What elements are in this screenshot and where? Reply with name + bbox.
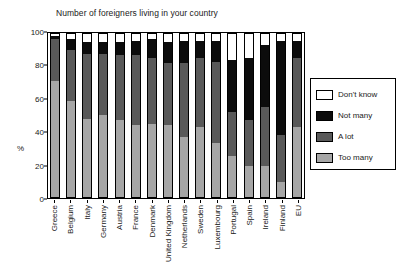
x-axis-tick-label: Finland [277, 205, 286, 231]
bar-segment-nm [164, 42, 172, 63]
bar-segment-nm [132, 41, 140, 56]
y-axis-tick-label: 20 [4, 161, 44, 170]
bar-segment-tm [116, 120, 124, 197]
bar-segment-tm [51, 81, 59, 197]
bar-column[interactable] [179, 33, 189, 198]
x-axis-tick-mark [135, 200, 136, 203]
bar-segment-nm [196, 41, 204, 59]
stacked-bar[interactable] [115, 33, 125, 198]
bar-column[interactable] [115, 33, 125, 198]
x-axis-tick-mark [152, 200, 153, 203]
bar-segment-al [83, 54, 91, 119]
x-axis-tick-mark [54, 200, 55, 203]
bar-segment-nm [293, 41, 301, 59]
x-axis-item: Sweden [195, 200, 205, 276]
bar-column[interactable] [227, 33, 237, 198]
bar-segment-tm [261, 166, 269, 197]
bar-segment-tm [212, 143, 220, 197]
legend-item[interactable]: Don't know [316, 84, 395, 105]
stacked-bar[interactable] [179, 33, 189, 198]
bar-segment-al [228, 112, 236, 156]
stacked-bar[interactable] [227, 33, 237, 198]
bar-segment-tm [293, 127, 301, 197]
bar-group [48, 33, 304, 198]
bar-column[interactable] [82, 33, 92, 198]
bar-segment-dk [99, 34, 107, 42]
bar-segment-dk [164, 34, 172, 42]
stacked-bar[interactable] [292, 33, 302, 198]
bar-segment-tm [83, 119, 91, 197]
y-axis-tick-label: 80 [4, 61, 44, 70]
x-axis-tick-label: Netherlands [180, 205, 189, 248]
bar-column[interactable] [276, 33, 286, 198]
y-axis-tick-label: 100 [4, 28, 44, 37]
stacked-bar[interactable] [147, 33, 157, 198]
bar-column[interactable] [98, 33, 108, 198]
bar-segment-tm [99, 115, 107, 197]
bar-segment-tm [277, 182, 285, 197]
y-axis-tick-label: 40 [4, 128, 44, 137]
x-axis-item: Italy [82, 200, 92, 276]
bar-segment-tm [196, 127, 204, 197]
bar-segment-al [164, 63, 172, 125]
bar-segment-tm [67, 101, 75, 197]
x-axis-item: United Kingdom [163, 200, 173, 276]
bar-column[interactable] [163, 33, 173, 198]
x-axis-item: Ireland [260, 200, 270, 276]
legend-item[interactable]: Too many [316, 147, 395, 168]
x-axis-item: Greece [49, 200, 59, 276]
bar-segment-al [261, 107, 269, 166]
bar-column[interactable] [147, 33, 157, 198]
x-axis-tick-mark [184, 200, 185, 203]
bar-segment-al [67, 50, 75, 101]
stacked-bar[interactable] [131, 33, 141, 198]
x-axis-tick-mark [103, 200, 104, 203]
y-axis-tick-label: 60 [4, 94, 44, 103]
bar-segment-dk [83, 34, 91, 42]
bar-column[interactable] [131, 33, 141, 198]
bar-column[interactable] [292, 33, 302, 198]
bar-segment-al [245, 120, 253, 166]
stacked-bar[interactable] [195, 33, 205, 198]
bar-column[interactable] [66, 33, 76, 198]
x-axis-tick-label: Sweden [196, 205, 205, 234]
bar-column[interactable] [244, 33, 254, 198]
y-axis: % 020406080100 [0, 32, 47, 199]
bar-segment-dk [116, 34, 124, 42]
x-axis-tick-label: United Kingdom [163, 205, 172, 262]
stacked-bar[interactable] [66, 33, 76, 198]
stacked-bar[interactable] [260, 33, 270, 198]
legend-item[interactable]: A lot [316, 126, 395, 147]
bar-segment-dk [261, 34, 269, 45]
stacked-bar[interactable] [276, 33, 286, 198]
x-axis-tick-mark [249, 200, 250, 203]
stacked-bar[interactable] [98, 33, 108, 198]
bar-segment-tm [148, 124, 156, 197]
x-axis-tick-mark [87, 200, 88, 203]
bar-segment-al [180, 63, 188, 136]
x-axis-tick-mark [282, 200, 283, 203]
stacked-bar[interactable] [50, 33, 60, 198]
stacked-bar[interactable] [163, 33, 173, 198]
bar-segment-tm [228, 156, 236, 197]
bar-column[interactable] [50, 33, 60, 198]
stacked-bar[interactable] [211, 33, 221, 198]
x-axis-item: EU [293, 200, 303, 276]
x-axis-item: Portugal [228, 200, 238, 276]
x-axis-tick-label: Ireland [261, 205, 270, 229]
x-axis-tick-mark [265, 200, 266, 203]
bar-column[interactable] [195, 33, 205, 198]
bar-segment-tm [164, 125, 172, 197]
stacked-bar[interactable] [244, 33, 254, 198]
x-axis-tick-mark [70, 200, 71, 203]
bar-segment-al [116, 55, 124, 120]
bar-column[interactable] [211, 33, 221, 198]
legend-item[interactable]: Not many [316, 105, 395, 126]
stacked-bar[interactable] [82, 33, 92, 198]
legend-swatch [316, 153, 333, 163]
x-axis-tick-label: EU [293, 205, 302, 216]
bar-segment-tm [245, 166, 253, 197]
x-axis-tick-label: Greece [50, 205, 59, 231]
bar-column[interactable] [260, 33, 270, 198]
x-axis-item: Spain [244, 200, 254, 276]
